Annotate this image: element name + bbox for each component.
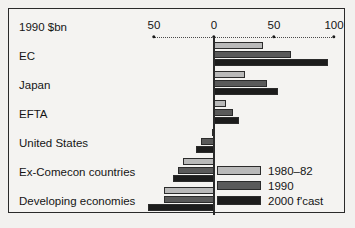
bar xyxy=(164,187,214,194)
category-label-2: EFTA xyxy=(19,108,48,121)
x-tick-dot-2 xyxy=(272,35,275,38)
bar xyxy=(173,175,214,182)
category-label-3: United States xyxy=(19,137,88,150)
category-label-0: EC xyxy=(19,50,35,63)
bar xyxy=(212,129,214,136)
legend-item: 2000 f'cast xyxy=(217,193,341,208)
chart-frame: 1990 $bn 50050100 ECJapanEFTAUnited Stat… xyxy=(8,8,345,213)
bar xyxy=(214,42,263,49)
bar xyxy=(178,167,214,174)
x-tick-label-2: 50 xyxy=(268,19,281,31)
bar xyxy=(148,204,214,211)
legend-item: 1990 xyxy=(217,178,341,193)
bar xyxy=(201,138,214,145)
category-label-1: Japan xyxy=(19,79,50,92)
legend-label: 2000 f'cast xyxy=(268,195,323,207)
bar xyxy=(214,100,226,107)
legend-swatch xyxy=(217,181,261,190)
legend-swatch xyxy=(217,196,261,205)
bar xyxy=(214,88,278,95)
bar xyxy=(214,59,328,66)
legend-swatch xyxy=(217,166,261,175)
legend-item: 1980–82 xyxy=(217,163,341,178)
bar xyxy=(214,51,291,58)
x-tick-label-1: 0 xyxy=(211,19,217,31)
category-label-4: Ex-Comecon countries xyxy=(19,166,135,179)
x-axis-dotted-rule xyxy=(154,37,334,38)
legend-label: 1980–82 xyxy=(268,165,313,177)
bar xyxy=(164,196,214,203)
plot-area: 1990 $bn 50050100 ECJapanEFTAUnited Stat… xyxy=(9,9,344,212)
bar xyxy=(183,158,214,165)
x-tick-dot-0 xyxy=(152,35,155,38)
bar xyxy=(214,80,267,87)
bar xyxy=(214,71,245,78)
x-tick-label-3: 100 xyxy=(324,19,343,31)
bar xyxy=(214,117,239,124)
x-tick-dot-3 xyxy=(332,35,335,38)
bar xyxy=(196,146,214,153)
category-label-5: Developing economies xyxy=(19,195,135,208)
chart-legend: 1980–8219902000 f'cast xyxy=(217,163,341,208)
x-tick-label-0: 50 xyxy=(148,19,161,31)
chart-units-header: 1990 $bn xyxy=(19,21,67,34)
bar xyxy=(214,109,233,116)
legend-label: 1990 xyxy=(268,180,294,192)
